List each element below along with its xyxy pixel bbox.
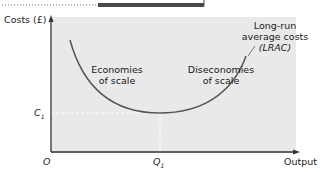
- x-axis-label: Output: [284, 156, 317, 167]
- y-axis-label: Costs (£): [4, 14, 47, 25]
- c1-label: C1: [34, 107, 44, 122]
- origin-label: O: [43, 156, 50, 167]
- lrac-label: Long-run average costs (LRAC): [232, 20, 318, 53]
- economies-of-scale-label: Economies of scale: [82, 64, 152, 86]
- x-axis-arrow-icon: [293, 150, 300, 155]
- diseconomies-of-scale-label: Diseconomies of scale: [186, 64, 256, 86]
- header-bar: [98, 3, 204, 7]
- q1-label: Q1: [153, 156, 164, 171]
